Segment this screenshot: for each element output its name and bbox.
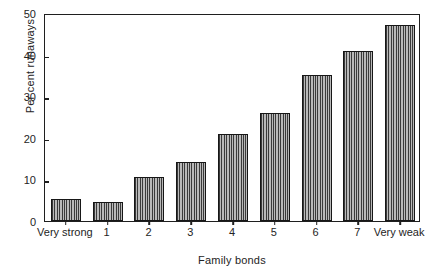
bar [302,75,332,221]
y-axis-tick-mark [45,98,49,99]
bar [260,113,290,221]
x-axis-tick-mark [358,221,360,225]
x-axis-tick-label: 4 [229,226,235,238]
x-axis-tick-label: 2 [145,226,151,238]
x-axis-tick-label: 3 [187,226,193,238]
bar [93,202,123,221]
x-axis-tick-label: 5 [271,226,277,238]
bar [134,177,164,221]
x-axis-tick-label: Very weak [374,226,425,238]
bar [385,25,415,221]
x-axis-tick-label: Very strong [37,226,93,238]
x-axis-tick-mark [190,221,192,225]
x-axis-tick-mark [316,221,318,225]
y-axis-tick-label: 20 [24,133,36,145]
y-axis-tick-label: 0 [30,216,36,228]
bar [51,199,81,221]
x-axis-tick-mark [232,221,234,225]
y-axis-tick-mark [45,181,49,182]
x-axis-tick-mark [107,221,109,225]
y-axis-tick-mark [45,140,49,141]
bar [176,162,206,221]
x-axis-tick-label: 7 [354,226,360,238]
x-axis-tick-mark [65,221,67,225]
x-axis-title: Family bonds [44,254,420,266]
bar [343,51,373,221]
x-axis-tick-mark [149,221,151,225]
x-axis-tick-label: 6 [312,226,318,238]
plot-area [44,14,420,222]
y-axis-tick-label: 50 [24,8,36,20]
y-axis-tick-label: 10 [24,174,36,186]
bar-chart-figure: Per cent runaways 01020304050 Very stron… [0,0,432,278]
bar-series [45,15,419,221]
x-axis-tick-mark [274,221,276,225]
bar [218,134,248,221]
y-axis-tick-label: 40 [24,50,36,62]
x-axis-tick-label: 1 [104,226,110,238]
x-axis-tick-labels: Very strong1234567Very weak [44,226,420,246]
x-axis-tick-mark [399,221,401,225]
y-axis-tick-mark [45,57,49,58]
y-axis-tick-label: 30 [24,91,36,103]
